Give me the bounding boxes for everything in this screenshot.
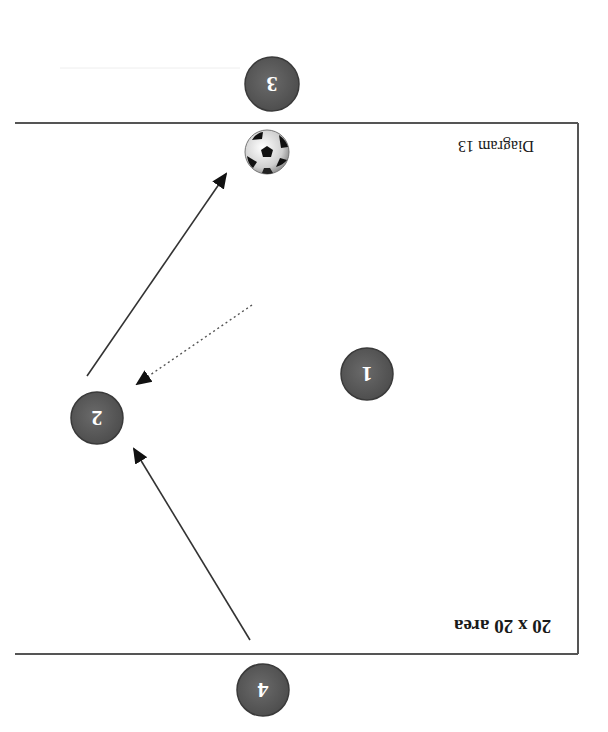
player-4-label: 4 xyxy=(237,664,289,716)
player-3-label: 3 xyxy=(246,58,298,110)
player-1-label: 1 xyxy=(341,348,393,400)
pass-arrow-4-to-2 xyxy=(134,449,250,640)
run-arrow-1-to-2 xyxy=(137,305,252,384)
field-boundary xyxy=(15,123,578,654)
area-label: 20 x 20 area xyxy=(454,615,551,637)
player-2-label: 2 xyxy=(71,392,123,444)
pass-arrow-2-to-ball xyxy=(87,174,226,376)
soccer-ball-icon xyxy=(245,130,289,174)
diagram-canvas: 3 1 2 4 Diagram 13 20 x 20 area xyxy=(0,0,608,732)
diagram-caption: Diagram 13 xyxy=(458,137,534,155)
